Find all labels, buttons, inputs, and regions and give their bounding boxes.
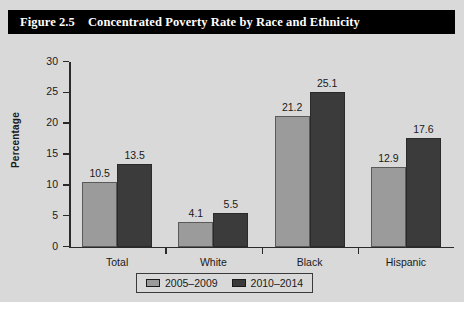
bar-group: 4.15.5 [178,62,248,247]
bar [213,213,248,247]
chart-legend: 2005–2009 2010–2014 [136,273,313,293]
legend-item-2005-2009: 2005–2009 [146,277,218,289]
bar-value-label: 5.5 [205,198,256,210]
x-axis-category-label: White [165,256,261,268]
legend-swatch-icon-2005-2009 [146,279,160,287]
x-axis-tick [165,248,167,254]
y-axis-tick-label: 25 [18,85,58,97]
figure-title: Concentrated Poverty Rate by Race and Et… [88,15,360,30]
y-axis-tick-label: 15 [18,147,58,159]
bar [82,182,117,247]
chart-plot: Percentage 051015202530 10.513.54.15.521… [0,40,464,302]
legend-label-2005-2009: 2005–2009 [165,277,218,289]
x-axis-category-label: Black [262,256,358,268]
x-axis-tick [262,248,264,254]
bar-group: 21.225.1 [275,62,345,247]
x-axis-category-label: Total [69,256,165,268]
bar-value-label: 25.1 [302,77,353,89]
bar-value-label: 17.6 [398,123,449,135]
legend-swatch-icon-2010-2014 [232,279,246,287]
y-axis-tick-label: 30 [18,55,58,67]
bar [178,222,213,247]
bar [275,116,310,247]
bar-value-label: 13.5 [109,149,160,161]
figure-header-bar: Figure 2.5 Concentrated Poverty Rate by … [8,10,455,34]
bars-container: 10.513.54.15.521.225.112.917.6 [69,62,454,247]
y-axis-tick-label: 5 [18,209,58,221]
bar-group: 10.513.5 [82,62,152,247]
x-axis-tick [358,248,360,254]
bar [117,164,152,247]
figure-panel: Figure 2.5 Concentrated Poverty Rate by … [0,0,464,302]
y-axis-tick-label: 10 [18,178,58,190]
bar [406,138,441,247]
x-axis-category-label: Hispanic [358,256,454,268]
legend-label-2010-2014: 2010–2014 [251,277,304,289]
bar [371,167,406,247]
bar-group: 12.917.6 [371,62,441,247]
legend-item-2010-2014: 2010–2014 [232,277,304,289]
figure-number: Figure 2.5 [20,15,75,30]
y-axis-tick-label: 0 [18,240,58,252]
y-axis-tick-label: 20 [18,116,58,128]
bar [310,92,345,247]
